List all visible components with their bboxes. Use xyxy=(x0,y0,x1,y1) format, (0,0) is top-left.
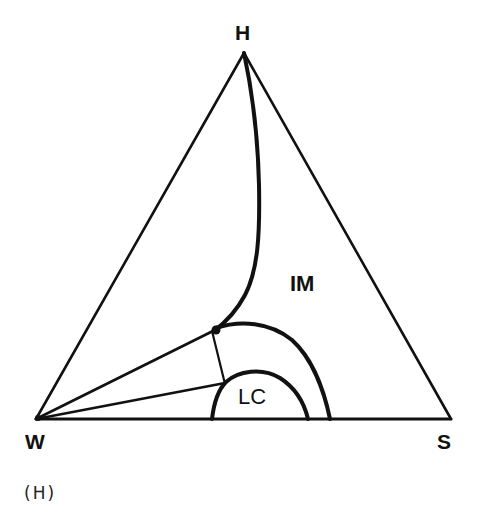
region-label-im: IM xyxy=(290,273,314,295)
tie-line-connector xyxy=(212,331,225,384)
w-vertex-dot xyxy=(35,415,41,421)
ternary-diagram xyxy=(0,0,481,512)
tie-line-upper xyxy=(36,331,213,419)
region-label-lc: LC xyxy=(238,386,266,408)
tie-line-lower xyxy=(36,383,225,419)
figure-caption: (H) xyxy=(24,485,56,502)
phase-boundary-im-arc xyxy=(216,324,330,419)
vertex-label-w: W xyxy=(25,431,45,452)
vertex-label-h: H xyxy=(235,22,250,43)
triangle-left-edge xyxy=(36,53,244,419)
three-phase-junction xyxy=(212,326,221,335)
triangle-right-edge xyxy=(244,53,451,419)
vertex-label-s: S xyxy=(437,431,451,452)
